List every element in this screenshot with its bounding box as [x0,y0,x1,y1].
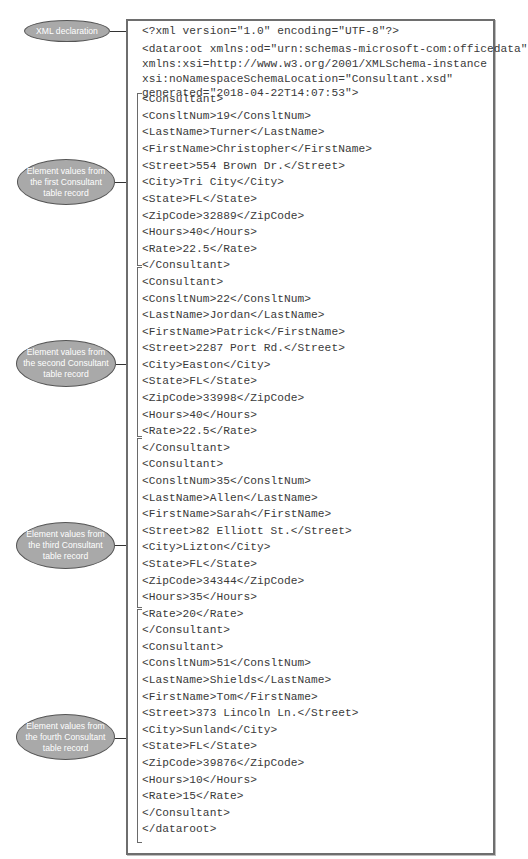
callout-fourth-record: Element values from the fourth Consultan… [16,714,115,760]
record-line: <Rate>22.5</Rate> [142,424,257,438]
record-line: <ConsltNum>51</ConsltNum> [142,656,311,670]
record-line: <State>FL</State> [142,374,257,388]
record-line: </Consultant> [142,806,230,820]
record-line: <LastName>Jordan</LastName> [142,308,325,322]
record-line: <State>FL</State> [142,557,257,571]
record-line: <City>Tri City</City> [142,175,284,189]
record-line: <Consultant> [142,640,223,654]
record-line: <ZipCode>32889</ZipCode> [142,209,304,223]
callout-second-record: Element values from the second Consultan… [16,340,116,387]
record-line: <Rate>20</Rate> [142,607,243,621]
callout-label: Element values from the third Consultant… [26,529,104,562]
record-line: <State>FL</State> [142,192,257,206]
record-line: <ZipCode>33998</ZipCode> [142,391,304,405]
callout-label: Element values from the fourth Consultan… [26,721,106,754]
callout-first-record: Element values from the first Consultant… [17,159,115,205]
record-line: <ConsltNum>22</ConsltNum> [142,292,311,306]
record-line: <ZipCode>34344</ZipCode> [142,574,304,588]
callout-xml-declaration: XML declaration [24,20,110,42]
record-line: <City>Sunland</City> [142,723,277,737]
callout-label: Element values from the second Consultan… [23,347,109,380]
record-line: <Rate>22.5</Rate> [142,242,257,256]
dataroot-open-line: <dataroot xmlns:od="urn:schemas-microsof… [142,42,528,56]
record-line: <Street>2287 Port Rd.</Street> [142,341,345,355]
record-line: <Hours>40</Hours> [142,408,257,422]
record-line: <Street>82 Elliott St.</Street> [142,524,352,538]
record-line: <Street>554 Brown Dr.</Street> [142,159,345,173]
callout-label: XML declaration [36,26,98,37]
record-line: <Rate>15</Rate> [142,789,243,803]
record-line: <FirstName>Sarah</FirstName> [142,507,331,521]
callout-third-record: Element values from the third Consultant… [16,522,115,569]
record-line: <Consultant> [142,92,223,106]
dataroot-open-line: xmlns:xsi=http://www.w3.org/2001/XMLSche… [142,57,487,71]
record-line: </Consultant> [142,258,230,272]
record-line: <ZipCode>39876</ZipCode> [142,756,304,770]
dataroot-close-line: </dataroot> [142,822,216,836]
callout-label: Element values from the first Consultant… [27,166,105,199]
record-line: <Hours>10</Hours> [142,773,257,787]
record-line: <LastName>Shields</LastName> [142,673,331,687]
record-line: <FirstName>Patrick</FirstName> [142,325,345,339]
record-line: <City>Easton</City> [142,358,271,372]
record-line: <State>FL</State> [142,739,257,753]
record-line: <LastName>Allen</LastName> [142,491,318,505]
record-line: <FirstName>Christopher</FirstName> [142,142,372,156]
record-line: <City>Lizton</City> [142,540,271,554]
record-line: <ConsltNum>35</ConsltNum> [142,474,311,488]
record-line: <Hours>35</Hours> [142,590,257,604]
xml-declaration-line: <?xml version="1.0" encoding="UTF-8"?> [142,24,399,38]
record-line: <LastName>Turner</LastName> [142,125,325,139]
record-line: <Hours>40</Hours> [142,225,257,239]
record-line: <Consultant> [142,275,223,289]
record-line: <Consultant> [142,457,223,471]
record-line: </Consultant> [142,441,230,455]
record-line: <ConsltNum>19</ConsltNum> [142,109,311,123]
dataroot-open-line: xsi:noNamespaceSchemaLocation="Consultan… [142,72,453,86]
record-line: <Street>373 Lincoln Ln.</Street> [142,706,358,720]
record-line: </Consultant> [142,623,230,637]
record-line: <FirstName>Tom</FirstName> [142,690,318,704]
